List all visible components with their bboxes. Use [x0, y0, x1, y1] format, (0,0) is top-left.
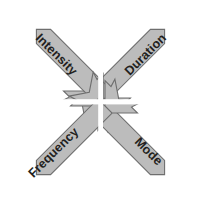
converging-arrows-diagram: Intensity Duration Frequency Mode [0, 0, 201, 204]
arrow-diagram-canvas: Intensity Duration Frequency Mode [0, 0, 201, 204]
